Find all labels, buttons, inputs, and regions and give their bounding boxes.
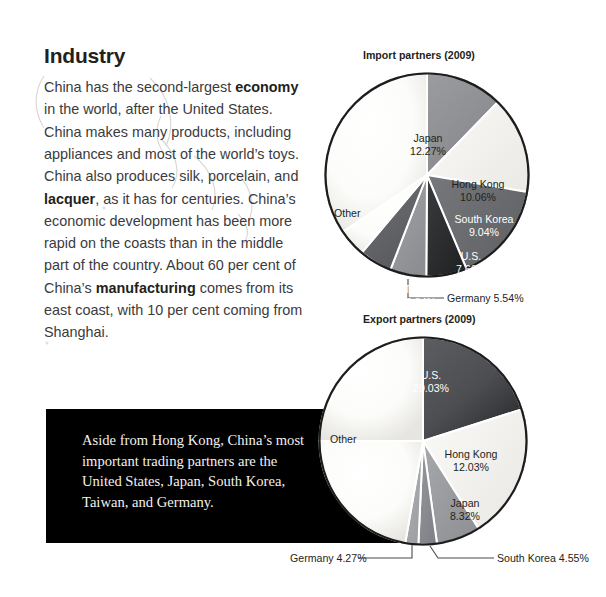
export-slice-other-lower [320,441,424,543]
import-label-taiwan: Taiwan 6.84% [390,283,452,309]
export-callout-south-korea: South Korea 4.55% [497,552,589,564]
export-label-japan: Japan 8.32% [434,497,496,523]
article-text-column: Industry China has the second-largest ec… [44,44,306,344]
import-label-japan: Japan 12.27% [392,132,464,158]
highlight-callout-text: Aside from Hong Kong, China’s most impor… [82,430,310,512]
export-callout-germany: Germany 4.27% [290,552,367,564]
export-label-us: U.S. 20.03% [396,369,466,395]
import-label-us: U.S. 7.66% [442,250,500,276]
export-partners-chart: Export partners (2009) [306,311,606,581]
import-label-south-korea: South Korea 9.04% [436,213,532,239]
export-label-hong-kong: Hong Kong 12.03% [427,448,515,474]
export-southkorea-leader-line [430,546,494,558]
import-label-other: Other [334,207,361,220]
import-label-hong-kong: Hong Kong 10.06% [434,178,522,204]
article-paragraph: China has the second-largest economy in … [44,76,306,344]
import-callout-germany: Germany 5.54% [447,292,524,304]
import-partners-chart: Import partners (2009) [306,46,606,311]
page-title: Industry [44,44,306,67]
export-label-other: Other [330,433,357,446]
